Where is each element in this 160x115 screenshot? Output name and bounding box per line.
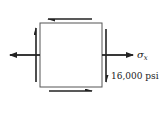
stress-element-square <box>40 23 102 87</box>
sigma-x-label: σx <box>137 49 148 62</box>
stress-element-diagram: σx 16,000 psi <box>0 0 160 115</box>
shear-stress-label: 16,000 psi <box>111 71 159 81</box>
